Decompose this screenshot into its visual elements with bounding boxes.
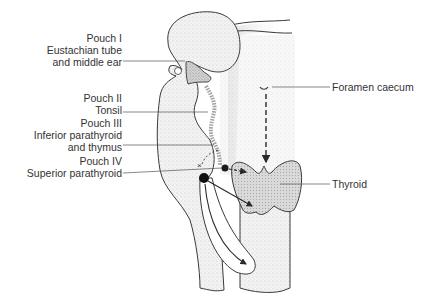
pouch-2-title: Pouch II: [10, 92, 122, 104]
pouch-1-line3: and middle ear: [10, 56, 122, 68]
pouch-3-line2: Inferior parathyroid: [0, 129, 122, 141]
pouch-4-title: Pouch IV: [0, 155, 122, 167]
pouch-1-knob: [175, 68, 182, 75]
thyroid-title: Thyroid: [332, 178, 367, 190]
pouch-1-line2: Eustachian tube: [10, 44, 122, 56]
label-pouch-2: Pouch II Tonsil: [10, 92, 122, 116]
foramen-caecum-title: Foramen caecum: [332, 81, 414, 93]
label-pouch-1: Pouch I Eustachian tube and middle ear: [10, 32, 122, 68]
pouch-4-dot: [222, 165, 229, 172]
diagram-canvas: × Pouch I Eustachian tube and middle ear…: [0, 0, 425, 308]
pouch-1-title: Pouch I: [10, 32, 122, 44]
x-mark: ×: [197, 161, 202, 170]
label-pouch-3: Pouch III Inferior parathyroid and thymu…: [0, 117, 122, 153]
pouch-4-line2: Superior parathyroid: [0, 167, 122, 179]
pouch-2-line2: Tonsil: [10, 104, 122, 116]
pouch-3-line3: and thymus: [0, 141, 122, 153]
pouch-3-dot: [199, 173, 209, 183]
label-foramen-caecum: Foramen caecum: [332, 81, 414, 93]
pouch-3-title: Pouch III: [0, 117, 122, 129]
label-thyroid: Thyroid: [332, 178, 367, 190]
label-pouch-4: Pouch IV Superior parathyroid: [0, 155, 122, 179]
